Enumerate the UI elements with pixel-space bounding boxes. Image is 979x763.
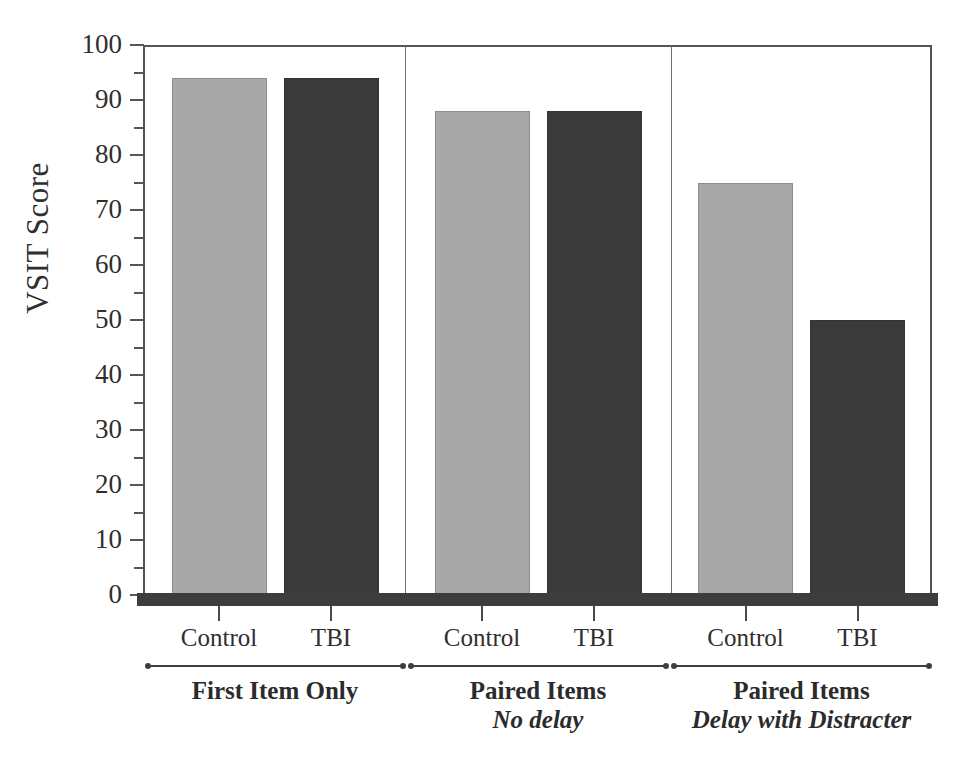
y-tick-major (130, 374, 144, 376)
group-separator-line (671, 46, 672, 594)
y-tick-major (130, 484, 144, 486)
y-tick-major (130, 429, 144, 431)
group-bracket (145, 662, 406, 669)
y-tick-label: 10 (62, 526, 122, 553)
y-tick-label: 50 (62, 306, 122, 333)
group-caption-primary: Paired Items (671, 676, 932, 705)
bar-control-group2 (435, 111, 530, 595)
bar-tbi-group3 (810, 320, 905, 595)
group-caption-2: Paired ItemsNo delay (408, 676, 669, 734)
group-caption-1: First Item Only (145, 676, 406, 705)
y-tick-label: 100 (62, 31, 122, 58)
y-tick-major (130, 154, 144, 156)
y-tick-label: 60 (62, 251, 122, 278)
group-bracket (408, 662, 669, 669)
y-tick-major (130, 539, 144, 541)
y-tick-major (130, 44, 144, 46)
y-tick-label: 20 (62, 471, 122, 498)
x-tick (218, 606, 220, 621)
bar-tbi-group1 (284, 78, 379, 595)
bar-chart-figure: VSIT Score 0102030405060708090100 Contro… (0, 0, 979, 763)
x-tick (745, 606, 747, 621)
bracket-cap-right (926, 663, 932, 669)
bracket-line (148, 665, 403, 667)
y-tick-label: 40 (62, 361, 122, 388)
x-tick (593, 606, 595, 621)
y-tick-label: 90 (62, 86, 122, 113)
y-tick-major (130, 319, 144, 321)
group-caption-secondary: Delay with Distracter (671, 705, 932, 734)
bar-control-group1 (172, 78, 267, 595)
group-caption-secondary: No delay (408, 705, 669, 734)
bar-control-group3 (698, 183, 793, 596)
bracket-cap-right (400, 663, 406, 669)
group-separator-line (405, 46, 406, 594)
group-bracket (671, 662, 932, 669)
y-tick-label: 30 (62, 416, 122, 443)
x-tick (330, 606, 332, 621)
y-tick-label: 70 (62, 196, 122, 223)
y-axis-title: VSIT Score (20, 128, 56, 348)
x-axis-label-tbi: TBI (256, 624, 406, 652)
x-tick (481, 606, 483, 621)
group-caption-3: Paired ItemsDelay with Distracter (671, 676, 932, 734)
y-tick-major (130, 209, 144, 211)
y-tick-major (130, 264, 144, 266)
x-axis-label-tbi: TBI (783, 624, 933, 652)
x-axis-label-tbi: TBI (519, 624, 669, 652)
y-tick-label: 0 (62, 581, 122, 608)
bracket-cap-right (663, 663, 669, 669)
bar-tbi-group2 (547, 111, 642, 595)
bracket-line (674, 665, 929, 667)
bracket-line (411, 665, 666, 667)
y-tick-major (130, 99, 144, 101)
x-tick (857, 606, 859, 621)
group-caption-primary: Paired Items (408, 676, 669, 705)
y-tick-label: 80 (62, 141, 122, 168)
axis-baseline (137, 593, 938, 606)
group-caption-primary: First Item Only (145, 676, 406, 705)
